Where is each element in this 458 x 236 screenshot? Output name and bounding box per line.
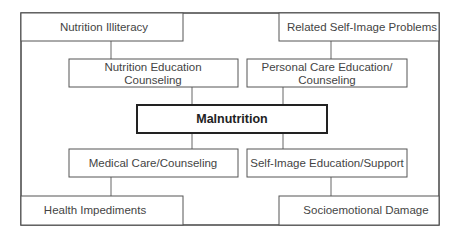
node-medical-care: Medical Care/Counseling (69, 149, 238, 177)
node-label-line-1: Personal Care Education/ (261, 61, 393, 73)
node-malnutrition: Malnutrition (137, 105, 327, 133)
node-socioemotional-damage: Socioemotional Damage (279, 196, 439, 225)
node-self-image-education: Self-Image Education/Support (247, 149, 407, 177)
node-label-line-1: Nutrition Education (104, 61, 201, 73)
node-label: Socioemotional Damage (303, 204, 428, 216)
node-label: Nutrition Illiteracy (60, 21, 148, 33)
malnutrition-diagram: Nutrition Illiteracy Related Self-Image … (0, 0, 458, 236)
node-nutrition-illiteracy: Nutrition Illiteracy (21, 13, 183, 41)
node-label: Self-Image Education/Support (250, 157, 404, 169)
node-health-impediments: Health Impediments (21, 196, 183, 225)
node-label: Health Impediments (44, 204, 147, 216)
node-label: Related Self-Image Problems (287, 21, 437, 33)
node-label: Malnutrition (196, 112, 268, 126)
node-personal-care-education: Personal Care Education/ Counseling (247, 59, 407, 87)
node-label-line-2: Counseling (298, 74, 356, 86)
node-label-line-2: Counseling (124, 74, 182, 86)
node-label: Medical Care/Counseling (89, 157, 217, 169)
node-related-self-image-problems: Related Self-Image Problems (279, 13, 439, 41)
node-nutrition-education: Nutrition Education Counseling (69, 59, 238, 87)
